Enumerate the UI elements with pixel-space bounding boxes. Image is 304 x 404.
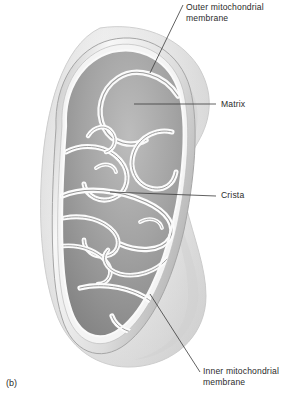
figure-page: Outer mitochondrial membrane Matrix Cris… [0,0,304,404]
label-inner-mitochondrial-membrane: Inner mitochondrial membrane [203,366,303,388]
label-crista: Crista [221,190,244,201]
mitochondrion-illustration [0,0,304,404]
label-outer-mitochondrial-membrane: Outer mitochondrial membrane [186,2,302,24]
label-matrix: Matrix [221,99,245,110]
figure-caption: (b) [6,378,17,388]
